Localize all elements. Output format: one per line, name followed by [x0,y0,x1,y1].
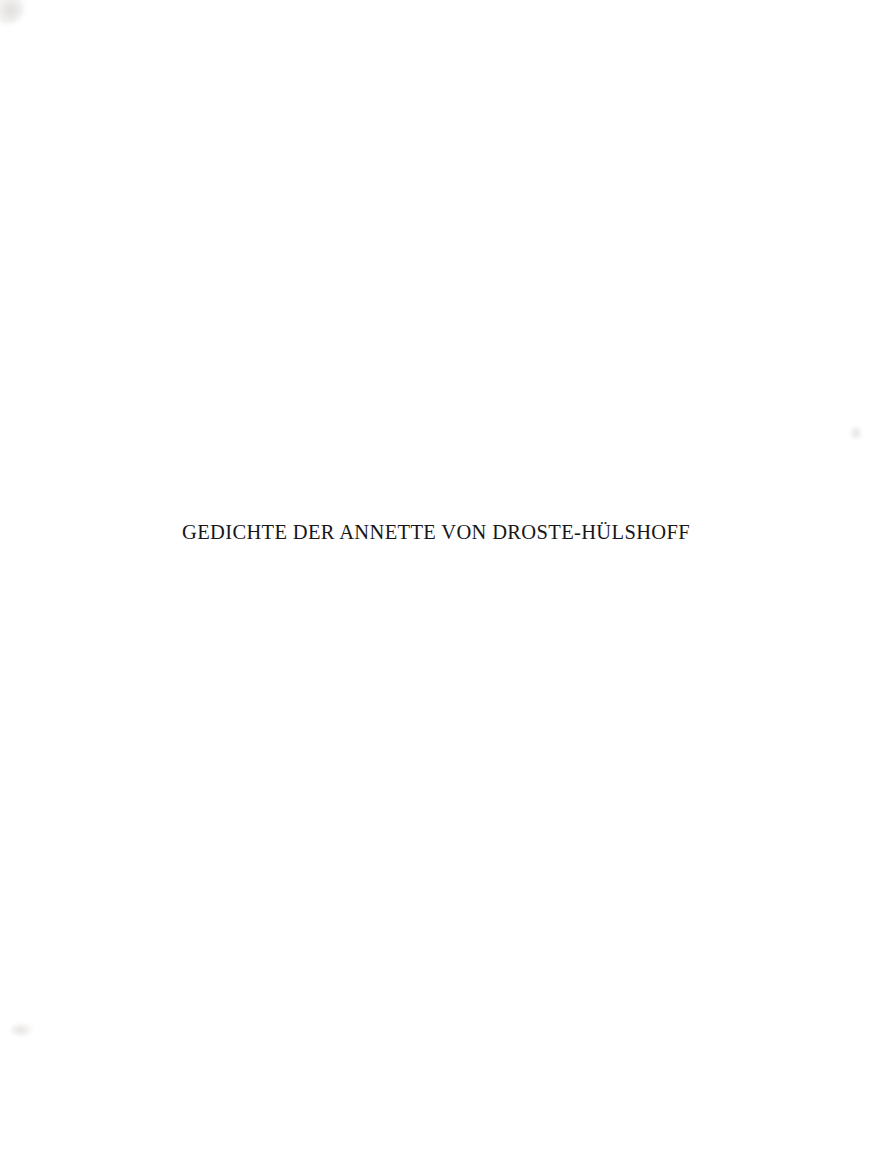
scan-smudge-top-left-artifact [0,0,24,24]
page-title: GEDICHTE DER ANNETTE VON DROSTE-HÜLSHOFF [182,519,690,545]
half-title-line: GEDICHTE DER ANNETTE VON DROSTE-HÜLSHOFF [0,519,872,545]
scan-mark-bottom-left-artifact [10,1022,34,1038]
scanned-page: GEDICHTE DER ANNETTE VON DROSTE-HÜLSHOFF [0,0,872,1175]
scan-mark-right-edge-artifact [849,425,863,441]
